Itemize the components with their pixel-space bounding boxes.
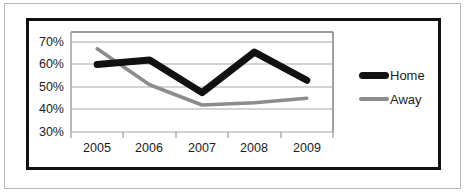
y-tick-label: 40% [39,102,64,116]
legend-swatch-home [359,72,389,79]
gridlines [71,42,333,132]
chart-legend: Home Away [359,68,425,107]
x-tick-label: 2006 [135,141,163,155]
legend-label-home: Home [390,68,425,83]
x-tick-label: 2007 [188,141,216,155]
y-tick-label: 30% [39,125,64,139]
legend-swatch-away [359,97,389,101]
x-axis-ticks [71,132,333,138]
x-tick-label: 2005 [83,141,111,155]
legend-label-away: Away [390,92,422,107]
line-chart: 70% 60% 50% 40% 30% 2005 2006 2007 2008 … [26,19,431,161]
series-line-away [97,49,307,105]
x-axis-labels: 2005 2006 2007 2008 2009 [83,141,321,155]
y-tick-label: 60% [39,57,64,71]
y-axis-labels: 70% 60% 50% 40% 30% [39,35,64,139]
x-tick-label: 2009 [293,141,321,155]
x-tick-label: 2008 [240,141,268,155]
y-tick-label: 50% [39,80,64,94]
chart-canvas: 70% 60% 50% 40% 30% 2005 2006 2007 2008 … [26,19,431,161]
plot-area-border [71,32,333,132]
y-tick-label: 70% [39,35,64,49]
series-group [97,49,307,105]
